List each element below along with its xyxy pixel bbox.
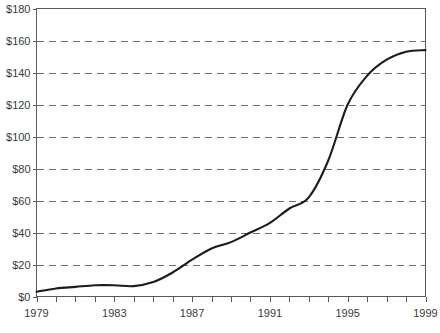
y-axis-label-140: $140 (6, 67, 30, 79)
x-axis-label-1987: 1987 (180, 307, 204, 319)
y-axis-label-160: $160 (6, 35, 30, 47)
data-series-layer (37, 50, 426, 292)
chart-canvas: $180$160$140$120$100$80$60$40$20$0 19791… (0, 0, 440, 333)
y-axis-labels: $180$160$140$120$100$80$60$40$20$0 (6, 3, 30, 303)
line-chart: $180$160$140$120$100$80$60$40$20$0 19791… (0, 0, 440, 333)
x-axis-label-1999: 1999 (413, 307, 437, 319)
x-axis-labels: 197919831987199119951999 (24, 307, 437, 319)
x-axis-label-1979: 1979 (24, 307, 48, 319)
x-axis-label-1991: 1991 (258, 307, 282, 319)
y-axis-label-60: $60 (12, 195, 30, 207)
y-axis-label-100: $100 (6, 131, 30, 143)
plot-frame (37, 9, 426, 297)
x-axis-label-1983: 1983 (102, 307, 126, 319)
data-series-line (37, 50, 426, 292)
y-axis-label-40: $40 (12, 227, 30, 239)
plot-border (37, 9, 426, 297)
y-axis-label-20: $20 (12, 259, 30, 271)
x-axis-ticks (33, 10, 427, 302)
y-axis-label-180: $180 (6, 3, 30, 15)
x-axis-label-1995: 1995 (335, 307, 359, 319)
y-axis-label-0: $0 (18, 291, 30, 303)
y-axis-label-80: $80 (12, 163, 30, 175)
y-axis-label-120: $120 (6, 99, 30, 111)
